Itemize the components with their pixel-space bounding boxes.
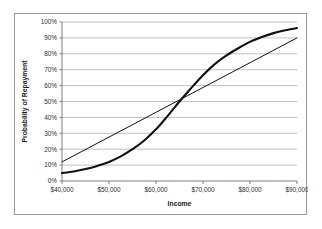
- y-tick-label: 70%: [44, 66, 57, 73]
- y-tick-label: 100%: [41, 18, 58, 25]
- y-tick-label: 80%: [44, 50, 57, 57]
- chart-frame: 0%10%20%30%40%50%60%70%80%90%100% $40,00…: [14, 13, 307, 215]
- x-axis-title: Income: [168, 200, 192, 207]
- y-tick-label: 40%: [44, 114, 57, 121]
- y-tick-label: 20%: [44, 146, 57, 153]
- y-axis-title: Probability of Repayment: [21, 60, 29, 143]
- x-tick-label: $40,000: [50, 186, 74, 193]
- x-tick-label: $60,000: [144, 186, 168, 193]
- y-tick-label: 30%: [44, 130, 57, 137]
- y-axis-tick-labels: 0%10%20%30%40%50%60%70%80%90%100%: [41, 18, 58, 184]
- x-tick-label: $50,000: [97, 186, 121, 193]
- probability-of-repayment-chart: 0%10%20%30%40%50%60%70%80%90%100% $40,00…: [15, 14, 308, 216]
- series-logistic-curve: [62, 28, 297, 173]
- x-axis-tick-labels: $40,000$50,000$60,000$70,000$80,000$90,0…: [50, 186, 308, 193]
- chart-plot-area: 0%10%20%30%40%50%60%70%80%90%100% $40,00…: [15, 14, 308, 216]
- y-tick-label: 10%: [44, 161, 57, 168]
- x-tick-label: $80,000: [238, 186, 262, 193]
- series-linear-line: [62, 38, 297, 162]
- y-tick-label: 50%: [44, 98, 57, 105]
- x-tick-label: $90,000: [285, 186, 308, 193]
- x-tick-label: $70,000: [191, 186, 215, 193]
- y-tick-label: 60%: [44, 82, 57, 89]
- y-tick-label: 0%: [48, 177, 58, 184]
- y-tick-label: 90%: [44, 34, 57, 41]
